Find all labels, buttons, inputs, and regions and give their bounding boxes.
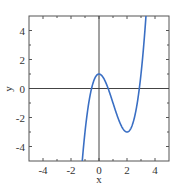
- y-tick-label: 4: [20, 25, 26, 37]
- y-tick-labels: -4-2024: [16, 25, 26, 153]
- x-tick-label: -2: [66, 164, 75, 176]
- x-axis-label: x: [96, 173, 102, 185]
- function-plot: -4-2024 -4-2024 x y: [0, 0, 181, 191]
- y-tick-label: 2: [20, 54, 26, 66]
- y-tick-label: 0: [20, 83, 26, 95]
- y-tick-label: -4: [16, 141, 26, 153]
- x-tick-label: -4: [38, 164, 48, 176]
- function-curve: [79, 0, 147, 191]
- x-tick-label: 2: [124, 164, 130, 176]
- y-tick-label: -2: [16, 112, 25, 124]
- y-axis-label: y: [2, 86, 14, 92]
- x-tick-label: 4: [152, 164, 158, 176]
